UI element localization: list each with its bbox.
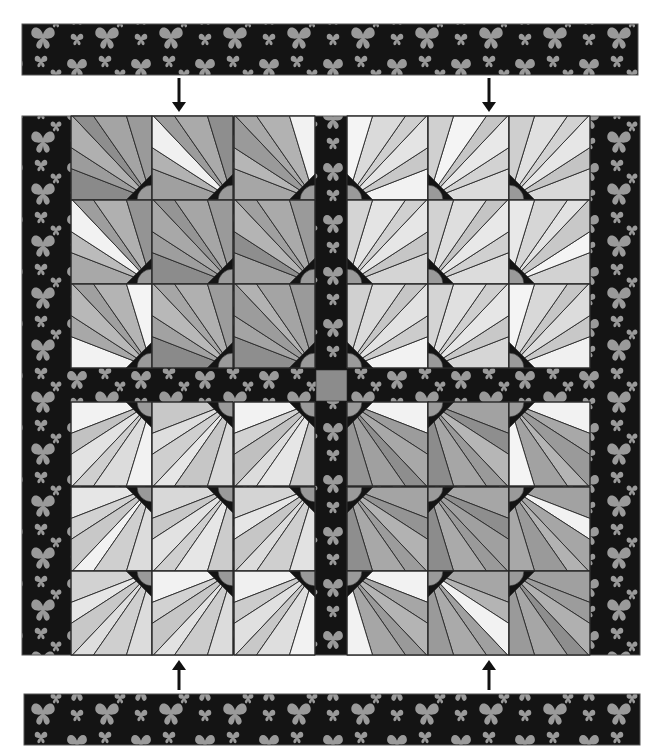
fan-block-bottom-right-6 bbox=[347, 571, 428, 655]
quilt-assembly-diagram bbox=[0, 0, 646, 752]
fan-block-bottom-right-0 bbox=[347, 402, 428, 486]
fan-block-bottom-left-0 bbox=[71, 402, 152, 486]
arrow-up-right-icon bbox=[482, 660, 496, 690]
fan-block-top-right-1 bbox=[428, 116, 509, 200]
fan-block-top-right-8 bbox=[509, 284, 590, 368]
bottom-border-strip bbox=[24, 694, 640, 745]
fan-block-bottom-right-7 bbox=[428, 571, 509, 655]
fan-block-top-right-5 bbox=[509, 200, 590, 284]
arrow-down-right-icon bbox=[482, 78, 496, 112]
fan-block-top-left-4 bbox=[152, 200, 233, 284]
fan-block-bottom-right-1 bbox=[428, 402, 509, 486]
fan-block-bottom-right-4 bbox=[428, 487, 509, 571]
fan-block-top-left-1 bbox=[152, 116, 233, 200]
quilt-center bbox=[22, 116, 640, 655]
fan-block-bottom-left-7 bbox=[152, 571, 233, 655]
fan-block-top-left-5 bbox=[234, 200, 315, 284]
fan-block-bottom-left-4 bbox=[152, 487, 233, 571]
fan-block-bottom-left-8 bbox=[234, 571, 315, 655]
fan-block-bottom-left-1 bbox=[152, 402, 233, 486]
top-border-strip bbox=[22, 24, 638, 75]
fan-block-top-left-0 bbox=[71, 116, 152, 200]
fan-block-top-right-6 bbox=[347, 284, 428, 368]
fan-block-top-right-4 bbox=[428, 200, 509, 284]
fan-block-bottom-left-5 bbox=[234, 487, 315, 571]
fan-block-top-left-8 bbox=[234, 284, 315, 368]
fan-block-top-right-2 bbox=[509, 116, 590, 200]
fan-block-top-right-7 bbox=[428, 284, 509, 368]
arrow-up-left-icon bbox=[172, 660, 186, 690]
fan-block-top-left-3 bbox=[71, 200, 152, 284]
fan-block-bottom-left-2 bbox=[234, 402, 315, 486]
fan-block-bottom-right-2 bbox=[509, 402, 590, 486]
arrow-down-left-icon bbox=[172, 78, 186, 112]
fan-block-top-right-3 bbox=[347, 200, 428, 284]
fan-block-top-right-0 bbox=[347, 116, 428, 200]
fan-block-top-left-7 bbox=[152, 284, 233, 368]
fan-block-bottom-right-3 bbox=[347, 487, 428, 571]
fan-block-bottom-left-6 bbox=[71, 571, 152, 655]
fan-block-bottom-right-8 bbox=[509, 571, 590, 655]
fan-block-top-left-2 bbox=[234, 116, 315, 200]
center-cornerstone bbox=[316, 370, 347, 401]
fan-block-bottom-left-3 bbox=[71, 487, 152, 571]
fan-block-bottom-right-5 bbox=[509, 487, 590, 571]
fan-block-top-left-6 bbox=[71, 284, 152, 368]
